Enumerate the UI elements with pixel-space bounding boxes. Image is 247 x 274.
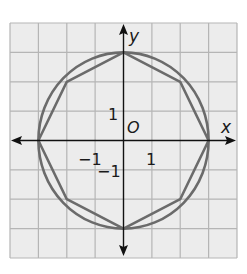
x-tick-label-pos: 1 (146, 150, 156, 169)
y-tick-label-pos: 1 (108, 105, 118, 124)
y-tick-label-neg: −1 (97, 162, 121, 181)
origin-label: O (127, 118, 140, 137)
coordinate-plane-figure: y x O 1 −1 −1 1 (0, 0, 247, 274)
x-axis-label: x (220, 117, 232, 137)
y-axis-label: y (128, 26, 140, 46)
